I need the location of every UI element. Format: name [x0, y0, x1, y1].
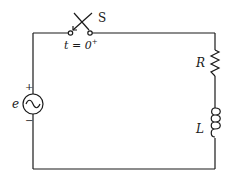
- resistor-r: [211, 50, 219, 76]
- switch-s: [68, 13, 92, 35]
- source-negative: −: [25, 115, 33, 126]
- switch-time-label: t = 0+: [64, 38, 98, 52]
- inductor-label: L: [195, 122, 204, 136]
- inductor-l: [211, 108, 220, 137]
- switch-label: S: [98, 11, 106, 25]
- sine-wave-icon: [26, 100, 40, 108]
- circuit-diagram: S t = 0+ + − e R L: [0, 0, 234, 179]
- source-label: e: [12, 97, 19, 111]
- resistor-label: R: [195, 56, 205, 70]
- circuit-wires: [33, 33, 215, 169]
- source-positive: +: [25, 81, 33, 92]
- ac-source: [23, 94, 43, 114]
